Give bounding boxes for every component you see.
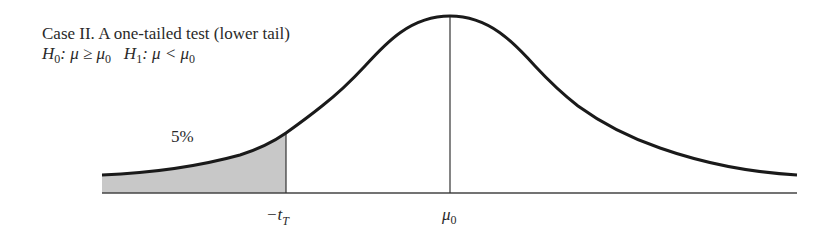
- critical-value-symbol: −t: [266, 205, 282, 224]
- mean-label: μ0: [442, 205, 457, 226]
- rejection-region: [102, 133, 286, 193]
- h0-relation: : μ ≥ μ: [60, 44, 105, 63]
- mean-subscript: 0: [451, 213, 457, 227]
- hypotheses-line: H0: μ ≥ μ0 H1: μ < μ0: [42, 44, 195, 65]
- h0-relation-subscript: 0: [105, 52, 111, 66]
- diagram-title: Case II. A one-tailed test (lower tail): [42, 24, 290, 44]
- critical-value-subscript: T: [282, 214, 289, 228]
- h1-relation-subscript: 0: [189, 52, 195, 66]
- region-percent-label: 5%: [171, 127, 194, 147]
- region-percent-text: 5%: [171, 127, 194, 146]
- h1-relation: : μ < μ: [142, 44, 189, 63]
- h1-subscript: 1: [136, 52, 142, 66]
- h1-symbol: H: [124, 44, 136, 63]
- mean-symbol: μ: [442, 205, 451, 224]
- h0-symbol: H: [42, 44, 54, 63]
- title-text: Case II. A one-tailed test (lower tail): [42, 24, 290, 43]
- h0-subscript: 0: [54, 52, 60, 66]
- critical-value-label: −tT: [266, 205, 289, 226]
